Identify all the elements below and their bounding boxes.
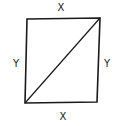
diagram-canvas: X X Y Y: [0, 0, 116, 126]
label-left: Y: [12, 58, 20, 69]
diagonal-line: [25, 18, 100, 103]
label-bottom: X: [60, 111, 67, 122]
label-right: Y: [103, 58, 111, 69]
label-top: X: [58, 2, 65, 13]
